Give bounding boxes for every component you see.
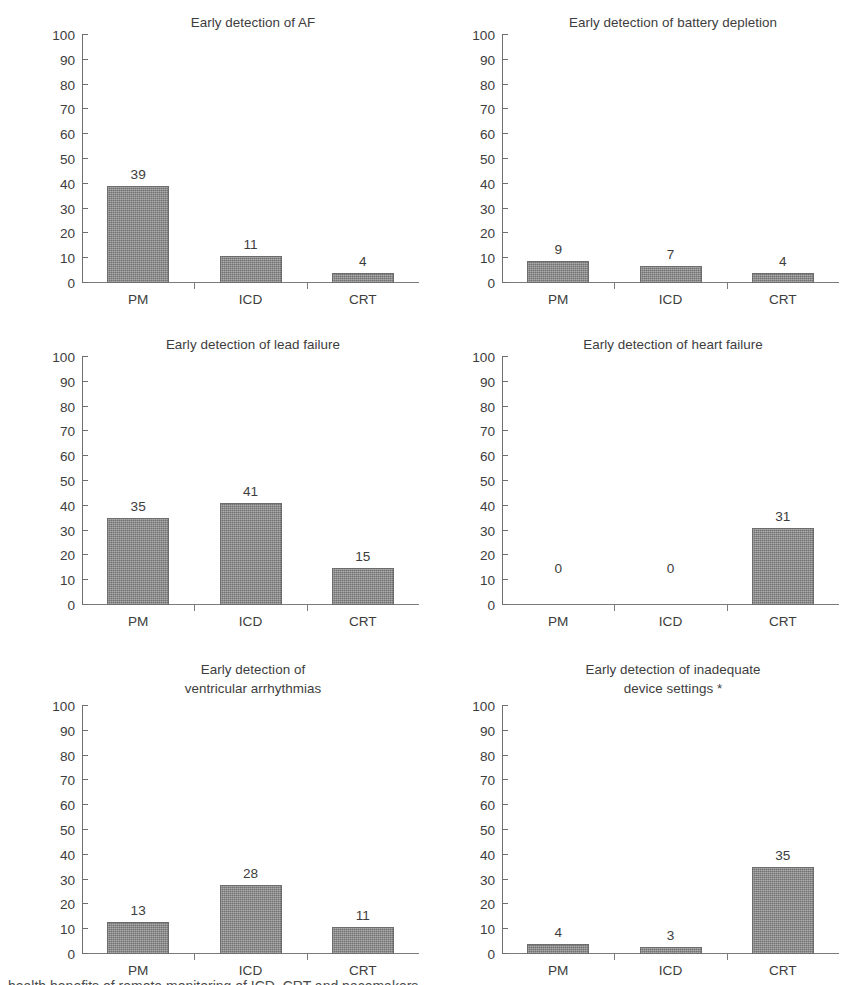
y-axis-tick [82,928,88,929]
chart-title-line: Early detection of AF [82,13,424,32]
chart-title-line: ventricular arrhythmias [82,679,424,698]
x-axis-tick [614,605,615,611]
y-axis-tick-label: 90 [60,723,75,738]
y-axis-tick-label: 0 [67,598,75,613]
chart-title: Early detection of heart failure [502,335,844,354]
x-axis-tick [614,283,615,289]
y-axis-line [82,357,83,605]
plot-area: 01020304050607080901009PM7ICD4CRT [502,35,839,283]
plot-area: 01020304050607080901004PM3ICD35CRT [502,706,839,954]
bar-value-label: 31 [775,509,790,524]
y-axis-tick [502,705,508,706]
y-axis-tick [82,505,88,506]
y-axis-tick-label: 90 [60,52,75,67]
y-axis-tick-label: 20 [60,226,75,241]
y-axis-tick [502,232,508,233]
y-axis-tick-label: 10 [480,573,495,588]
y-axis-tick-label: 90 [480,723,495,738]
x-axis-category-label: CRT [769,963,797,978]
y-axis-tick [82,455,88,456]
bar [640,947,702,954]
y-axis-tick-label: 20 [60,897,75,912]
y-axis-tick [502,430,508,431]
figure-caption-clipped: health benefits of remote monitoring of … [0,978,847,985]
y-axis-tick-label: 70 [60,424,75,439]
y-axis-tick [502,133,508,134]
y-axis-tick-label: 30 [480,201,495,216]
x-axis-category-label: ICD [239,614,262,629]
y-axis-tick [502,282,508,283]
bar-value-label: 4 [779,254,787,269]
y-axis-tick [82,730,88,731]
chart-panel-early-detection-of-heart-failure: Early detection of heart failure01020304… [432,330,844,648]
y-axis-tick [502,829,508,830]
y-axis-tick-label: 100 [472,699,495,714]
y-axis-tick-label: 50 [60,474,75,489]
y-axis-tick-label: 40 [480,498,495,513]
x-axis-category-label: PM [548,292,568,307]
x-axis-tick [307,605,308,611]
bar-value-label: 9 [554,242,562,257]
y-axis-tick [82,356,88,357]
y-axis-tick-label: 60 [60,449,75,464]
y-axis-tick-label: 100 [472,350,495,365]
bar-value-label: 0 [667,561,675,576]
y-axis-tick [502,879,508,880]
y-axis-tick-label: 30 [480,872,495,887]
y-axis-line [82,35,83,283]
y-axis-tick-label: 70 [60,102,75,117]
bar-chart-figure: Percentage of centres Early detection of… [0,0,847,985]
y-axis-tick [502,356,508,357]
y-axis-tick-label: 20 [480,897,495,912]
y-axis-tick [82,381,88,382]
y-axis-tick [82,257,88,258]
y-axis-line [82,706,83,954]
bar-value-label: 3 [667,928,675,943]
bar-value-label: 28 [243,866,258,881]
x-axis-tick [194,605,195,611]
y-axis-tick [502,779,508,780]
y-axis-tick-label: 40 [60,176,75,191]
y-axis-tick-label: 0 [487,598,495,613]
y-axis-tick [502,928,508,929]
y-axis-tick-label: 40 [60,847,75,862]
y-axis-tick [502,755,508,756]
y-axis-tick-label: 30 [60,872,75,887]
chart-title-line: Early detection of lead failure [82,335,424,354]
chart-panel-early-detection-of-battery-depletion: Early detection of battery depletion0102… [432,8,844,320]
bar [332,568,394,605]
chart-title: Early detection of inadequatedevice sett… [502,660,844,698]
x-axis-category-label: PM [128,614,148,629]
y-axis-tick [502,158,508,159]
y-axis-tick [502,730,508,731]
y-axis-tick [502,406,508,407]
y-axis-tick [502,804,508,805]
x-axis-tick [727,605,728,611]
chart-panel-early-detection-of-lead-failure: Early detection of lead failure010203040… [12,330,424,648]
y-axis-tick-label: 70 [60,773,75,788]
chart-title-line: Early detection of inadequate [502,660,844,679]
bar [752,273,814,283]
y-axis-tick [502,480,508,481]
chart-title-line: Early detection of heart failure [502,335,844,354]
y-axis-tick-label: 80 [60,399,75,414]
y-axis-tick [502,554,508,555]
bar-value-label: 11 [356,908,370,923]
y-axis-tick [82,34,88,35]
y-axis-tick [82,430,88,431]
y-axis-tick-label: 80 [480,77,495,92]
y-axis-tick-label: 10 [480,922,495,937]
y-axis-tick-label: 20 [480,226,495,241]
x-axis-category-label: CRT [769,614,797,629]
y-axis-tick-label: 60 [60,127,75,142]
y-axis-tick [502,604,508,605]
x-axis-category-label: PM [128,963,148,978]
bar-value-label: 41 [243,484,258,499]
y-axis-tick-label: 70 [480,102,495,117]
y-axis-tick-label: 50 [60,152,75,167]
y-axis-tick-label: 90 [60,374,75,389]
y-axis-tick [82,879,88,880]
y-axis-tick [82,108,88,109]
bar-value-label: 35 [131,499,146,514]
bar [640,266,702,283]
